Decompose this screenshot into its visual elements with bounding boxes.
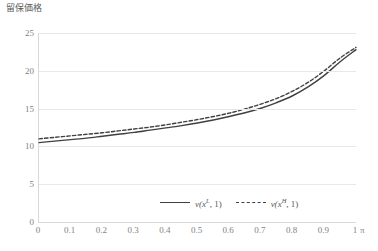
y-tick-label: 20 (4, 67, 34, 76)
x-tick-label: 1 (340, 226, 370, 235)
x-tick-label: 0.4 (150, 226, 180, 235)
reservation-price-chart: 留保価格 0510152025 00.10.20.30.40.50.60.70.… (0, 0, 378, 251)
x-axis-tick-labels: 00.10.20.30.40.50.60.70.80.91 (38, 226, 355, 240)
x-tick-label: 0.6 (213, 226, 243, 235)
y-tick-label: 10 (4, 142, 34, 151)
gridline (39, 71, 356, 72)
series-line (39, 47, 356, 138)
legend-entry[interactable]: v(xL, 1) (160, 196, 222, 209)
y-axis-title: 留保価格 (6, 3, 42, 14)
chart-legend: v(xL, 1)v(xH, 1) (160, 196, 298, 209)
x-tick-label: 0.2 (86, 226, 116, 235)
x-tick-label: 0.1 (55, 226, 85, 235)
gridline (39, 33, 356, 34)
x-tick-label: 0.3 (118, 226, 148, 235)
legend-swatch-solid-icon (160, 202, 190, 203)
gridline (39, 146, 356, 147)
legend-label: v(xL, 1) (195, 196, 222, 209)
x-axis-unit-label: π (360, 226, 365, 235)
y-tick-label: 25 (4, 29, 34, 38)
x-tick-label: 0.9 (308, 226, 338, 235)
legend-entry[interactable]: v(xH, 1) (236, 196, 299, 209)
legend-label: v(xH, 1) (271, 196, 299, 209)
gridline (39, 184, 356, 185)
y-tick-label: 5 (4, 180, 34, 189)
legend-swatch-dashed-icon (236, 202, 266, 203)
plot-area (38, 33, 356, 223)
curves-svg (39, 33, 356, 222)
y-tick-label: 15 (4, 105, 34, 114)
x-tick-label: 0.5 (182, 226, 212, 235)
y-axis-tick-labels: 0510152025 (0, 33, 34, 222)
x-tick-label: 0 (23, 226, 53, 235)
gridline (39, 109, 356, 110)
x-tick-label: 0.8 (277, 226, 307, 235)
series-line (39, 50, 356, 143)
x-tick-label: 0.7 (245, 226, 275, 235)
